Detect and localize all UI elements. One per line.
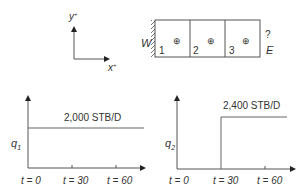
chart2-annotation: 2,400 STB/D xyxy=(223,100,280,111)
well-symbol-3: ⊕ xyxy=(242,36,250,46)
chart1-tick-label: t = 0 xyxy=(21,175,41,186)
unknown-boundary-label: ? xyxy=(265,29,271,40)
well-symbol-1: ⊕ xyxy=(173,36,181,46)
y-axis-label: y+ xyxy=(68,11,78,22)
chart2-y-label: q2 xyxy=(165,137,175,151)
chart2-tick-label: t = 0 xyxy=(169,175,189,186)
cell-number-3: 3 xyxy=(229,45,235,56)
chart2-tick-label: t = 60 xyxy=(257,175,283,186)
chart1-annotation: 2,000 STB/D xyxy=(64,112,121,123)
diagram-canvas: y+ x+ W ⊕ 1 ⊕ 2 ⊕ 3 ? E 2,000 STB/D q1 t… xyxy=(0,0,307,194)
cell-number-2: 2 xyxy=(193,45,199,56)
x-axis-label: x+ xyxy=(107,62,117,73)
chart2-tick-label: t = 30 xyxy=(213,175,239,186)
rate-chart-q1: 2,000 STB/D q1 t = 0 t = 30 t = 60 xyxy=(11,98,144,186)
east-label: E xyxy=(266,44,274,56)
chart1-y-label: q1 xyxy=(11,137,21,151)
no-flow-boundary-hatch xyxy=(151,20,155,57)
chart1-tick-label: t = 30 xyxy=(63,175,89,186)
chart2-rate-line xyxy=(221,117,287,169)
coordinate-axes: y+ x+ xyxy=(68,11,117,73)
well-symbol-2: ⊕ xyxy=(207,36,215,46)
chart1-tick-label: t = 60 xyxy=(107,175,133,186)
reservoir-grid: W ⊕ 1 ⊕ 2 ⊕ 3 ? E xyxy=(141,20,274,57)
west-label: W xyxy=(141,37,153,49)
rate-chart-q2: 2,400 STB/D q2 t = 0 t = 30 t = 60 xyxy=(165,98,293,186)
cell-number-1: 1 xyxy=(159,45,165,56)
